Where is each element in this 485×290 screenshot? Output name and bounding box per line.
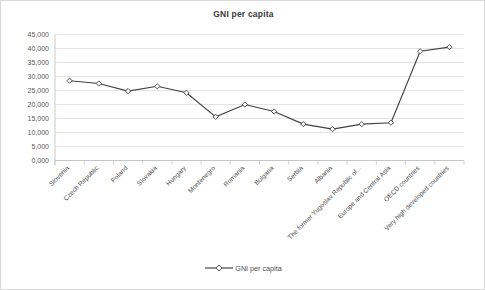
- y-axis-tick-labels: 0,0005,00010,00015,00020,00025,00030,000…: [28, 31, 50, 164]
- chart-legend: GNI per capita: [1, 263, 485, 273]
- data-point-marker: [96, 81, 101, 86]
- x-tick-label: Europe and Central Asia: [336, 164, 392, 220]
- data-point-marker: [67, 78, 72, 83]
- data-point-marker: [330, 127, 335, 132]
- data-point-marker: [155, 84, 160, 89]
- svg-text:10,000: 10,000: [28, 129, 50, 136]
- data-point-marker: [447, 45, 452, 50]
- svg-text:15,000: 15,000: [28, 115, 50, 122]
- x-tick-label: Romania: [222, 164, 246, 188]
- data-point-marker: [125, 88, 130, 93]
- legend-label: GNI per capita: [235, 264, 281, 273]
- line-chart-plot: 0,0005,00010,00015,00020,00025,00030,000…: [1, 1, 485, 290]
- x-tick-label: Very high developed countries: [383, 164, 452, 233]
- svg-text:25,000: 25,000: [28, 87, 50, 94]
- y-gridlines: [55, 35, 464, 161]
- x-tick-label: Poland: [109, 164, 129, 184]
- x-tick-label: Bulgaria: [253, 164, 276, 187]
- x-tick-label: Slovenia: [47, 164, 70, 187]
- data-point-marker: [272, 109, 277, 114]
- svg-text:0,000: 0,000: [31, 157, 49, 164]
- x-tick-label: Albania: [313, 164, 334, 185]
- x-tick-label: Slovakia: [135, 164, 158, 187]
- chart-container: GNI per capita 0,0005,00010,00015,00020,…: [0, 0, 485, 290]
- svg-text:20,000: 20,000: [28, 101, 50, 108]
- svg-text:30,000: 30,000: [28, 73, 50, 80]
- x-tick-label: Serbia: [286, 164, 305, 183]
- data-point-marker: [242, 102, 247, 107]
- x-tick-label: Hungary: [165, 164, 189, 188]
- x-tick-label: Montenegro: [187, 164, 218, 195]
- svg-text:45,000: 45,000: [28, 31, 50, 38]
- svg-text:40,000: 40,000: [28, 45, 50, 52]
- data-series-line: [70, 47, 450, 129]
- data-point-marker: [418, 49, 423, 54]
- legend-line-marker-icon: [205, 264, 233, 272]
- x-axis-tickmarks: [55, 161, 464, 165]
- x-axis-tick-labels: SloveniaCzech RepublicPolandSlovakiaHung…: [47, 164, 451, 242]
- svg-text:35,000: 35,000: [28, 59, 50, 66]
- data-point-marker: [359, 122, 364, 127]
- data-point-marker: [301, 122, 306, 127]
- data-point-marker: [388, 120, 393, 125]
- svg-text:5,000: 5,000: [31, 143, 49, 150]
- legend-item-gni-per-capita: GNI per capita: [205, 263, 281, 273]
